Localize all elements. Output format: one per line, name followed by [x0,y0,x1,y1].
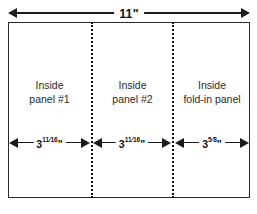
panel-label-3-line2: fold-in panel [174,92,250,106]
panel-dimension-3-label: 35⁄8" [202,138,222,150]
panel-label-1-line1: Inside [8,78,91,92]
dim-3-denominator: 8 [213,137,217,144]
panel-dimension-1: 311⁄16" [9,136,90,150]
panel-dimension-2: 311⁄16" [93,136,171,150]
arrow-right-icon [162,138,171,148]
panel-label-1: Inside panel #1 [8,78,91,106]
panel-label-1-line2: panel #1 [8,92,91,106]
arrow-right-icon [81,138,90,148]
panel-dimension-3: 35⁄8" [175,136,249,150]
panel-label-2: Inside panel #2 [93,78,172,106]
fold-line-2 [172,22,174,198]
dim-2-fraction: 11⁄16 [125,137,141,144]
trifold-panel-diagram: 11" Inside panel #1 Inside panel #2 Insi… [0,0,257,214]
panel-dimension-3-label-wrap: 35⁄8" [199,136,225,150]
panel-label-3: Inside fold-in panel [174,78,250,106]
dim-2-denominator: 16 [133,137,140,144]
dim-2-unit: " [140,138,145,150]
overall-width-dimension: 11" [8,6,250,20]
arrow-right-icon [240,138,249,148]
panel-dimension-1-label: 311⁄16" [36,138,62,150]
overall-width-label: 11" [119,7,139,21]
overall-width-label-wrap: 11" [114,6,144,20]
dim-2-numerator: 11 [125,137,132,144]
dim-1-denominator: 16 [50,137,57,144]
panel-label-2-line1: Inside [93,78,172,92]
dim-3-unit: " [217,138,222,150]
fold-line-1 [91,22,93,198]
dim-1-unit: " [58,138,63,150]
dim-1-numerator: 11 [42,137,49,144]
panel-dimension-1-label-wrap: 311⁄16" [33,136,65,150]
panel-dimension-2-label-wrap: 311⁄16" [116,136,148,150]
arrow-right-icon [241,8,250,18]
dim-1-fraction: 11⁄16 [42,137,58,144]
sheet-outline [8,22,250,198]
panel-dimension-2-label: 311⁄16" [119,138,145,150]
dim-3-fraction: 5⁄8 [208,137,217,144]
panel-label-2-line2: panel #2 [93,92,172,106]
panel-label-3-line1: Inside [174,78,250,92]
